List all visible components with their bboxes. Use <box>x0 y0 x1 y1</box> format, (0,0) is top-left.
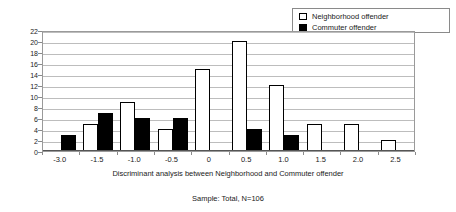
plot-area <box>42 31 415 152</box>
bar-commuter-0.5 <box>247 129 262 151</box>
gridline <box>43 43 414 44</box>
bar-commuter--1.5 <box>98 113 113 152</box>
x-axis-baseline <box>43 150 414 151</box>
y-axis-tick-label: 22 <box>14 28 38 35</box>
gridline <box>43 54 414 55</box>
bar-neighborhood-0 <box>195 69 210 152</box>
x-axis-tick-label: 1.0 <box>278 155 288 165</box>
bar-neighborhood--1.5 <box>83 124 98 152</box>
x-axis-tick-label: -1.5 <box>90 155 103 165</box>
legend-entry-neighborhood-offender: Neighborhood offender <box>299 11 449 21</box>
y-axis-tick-label: 4 <box>14 127 38 134</box>
x-axis-tick-label: 2.5 <box>390 155 400 165</box>
y-axis-tick-label: 18 <box>14 50 38 57</box>
bar-commuter--3.0 <box>61 135 76 152</box>
y-axis-tick-label: 20 <box>14 39 38 46</box>
y-axis-tick-labels: 0246810121416182022 <box>14 31 38 152</box>
x-axis-tick-label: 1.5 <box>316 155 326 165</box>
x-axis-tick-label: -3.0 <box>53 155 66 165</box>
gridline <box>43 76 414 77</box>
white-square-outline-icon <box>299 13 307 20</box>
bar-neighborhood-1.0 <box>269 85 284 151</box>
gridline <box>43 87 414 88</box>
bar-commuter-1.0 <box>284 135 299 152</box>
gridline <box>43 65 414 66</box>
chart-legend: Neighborhood offender Commuter offender <box>292 8 450 33</box>
bar-neighborhood-1.5 <box>307 124 322 152</box>
x-axis-tick-label: -1.0 <box>128 155 141 165</box>
x-axis-tick-label: 0 <box>207 155 211 165</box>
y-axis-tick-label: 10 <box>14 94 38 101</box>
x-axis-tick-label: 2.0 <box>353 155 363 165</box>
x-axis-tick-label: -0.5 <box>165 155 178 165</box>
x-axis-title: Discriminant analysis between Neighborho… <box>78 169 378 179</box>
legend-label-neighborhood-offender: Neighborhood offender <box>312 12 389 21</box>
discriminant-analysis-bar-chart: Neighborhood offender Commuter offender … <box>0 0 456 212</box>
y-axis-tick-label: 12 <box>14 83 38 90</box>
bar-neighborhood--1.0 <box>120 102 135 152</box>
bar-neighborhood-2.0 <box>344 124 359 152</box>
sample-note: Sample: Total, N=106 <box>78 194 378 204</box>
bar-commuter--0.5 <box>173 118 188 151</box>
gridline <box>43 109 414 110</box>
gridline <box>43 32 414 33</box>
x-axis-tick-mark <box>415 152 416 155</box>
y-axis-tick-label: 2 <box>14 138 38 145</box>
y-axis-tick-label: 8 <box>14 105 38 112</box>
x-axis-tick-label: 0.5 <box>241 155 251 165</box>
bar-neighborhood-0.5 <box>232 41 247 151</box>
y-axis-tick-label: 6 <box>14 116 38 123</box>
y-axis-tick-label: 16 <box>14 61 38 68</box>
y-axis-tick-label: 0 <box>14 149 38 156</box>
bar-commuter--1.0 <box>135 118 150 151</box>
gridline <box>43 98 414 99</box>
x-axis-tick-labels: -3.0-1.5-1.0-0.500.51.01.52.02.5 <box>42 155 415 167</box>
black-square-icon <box>299 24 307 31</box>
bar-neighborhood--0.5 <box>158 129 173 151</box>
y-axis-tick-label: 14 <box>14 72 38 79</box>
